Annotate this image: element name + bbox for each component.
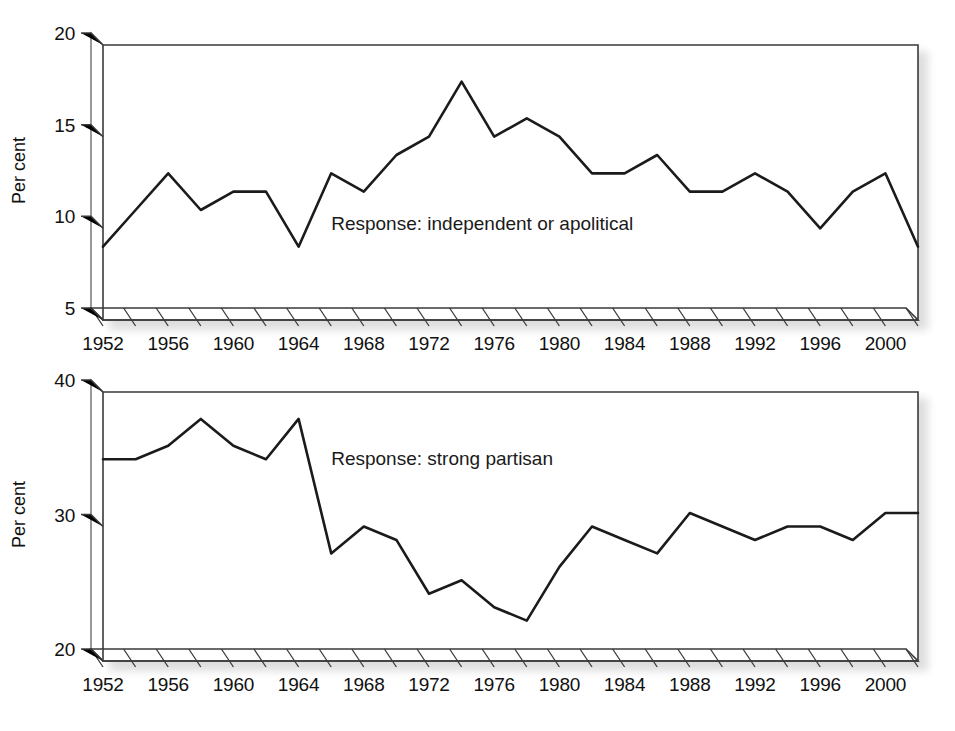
- line-chart-independent: 1952195619601964196819721976198019841988…: [0, 0, 955, 368]
- y-tick-label: 20: [54, 639, 75, 660]
- y-tick-label: 40: [54, 370, 75, 391]
- x-tick-label: 2000: [865, 674, 906, 695]
- x-tick-label: 1952: [82, 674, 123, 695]
- chart-panel-strong-partisan: 1952195619601964196819721976198019841988…: [0, 365, 955, 710]
- x-tick-label: 1964: [278, 674, 320, 695]
- series-annotation-label: Response: strong partisan: [331, 448, 553, 469]
- y-axis-title: Per cent: [9, 137, 29, 204]
- x-tick-label: 1980: [539, 333, 580, 354]
- line-chart-strong-partisan: 1952195619601964196819721976198019841988…: [0, 365, 955, 710]
- series-annotation-label: Response: independent or apolitical: [331, 213, 633, 234]
- x-tick-label: 1968: [343, 674, 384, 695]
- x-tick-label: 1984: [604, 333, 646, 354]
- x-tick-label: 1972: [408, 674, 449, 695]
- y-tick-label: 10: [54, 206, 75, 227]
- x-tick-label: 1960: [213, 674, 254, 695]
- figure-root: 1952195619601964196819721976198019841988…: [0, 0, 955, 731]
- y-tick-label: 30: [54, 505, 75, 526]
- x-tick-label: 2000: [865, 333, 906, 354]
- x-tick-label: 1992: [734, 674, 775, 695]
- x-tick-label: 1976: [473, 333, 514, 354]
- x-tick-label: 1988: [669, 674, 710, 695]
- x-tick-label: 1964: [278, 333, 320, 354]
- x-tick-label: 1952: [82, 333, 123, 354]
- x-tick-label: 1996: [799, 333, 840, 354]
- x-tick-label: 1972: [408, 333, 449, 354]
- x-tick-label: 1956: [147, 333, 188, 354]
- y-tick-label: 5: [65, 298, 75, 319]
- y-axis-title: Per cent: [9, 481, 29, 548]
- x-tick-label: 1980: [539, 674, 580, 695]
- y-tick-label: 15: [54, 115, 75, 136]
- x-tick-label: 1996: [799, 674, 840, 695]
- x-tick-label: 1976: [473, 674, 514, 695]
- x-tick-label: 1984: [604, 674, 646, 695]
- x-tick-label: 1992: [734, 333, 775, 354]
- x-tick-label: 1956: [147, 674, 188, 695]
- chart-panel-independent: 1952195619601964196819721976198019841988…: [0, 0, 955, 368]
- x-tick-label: 1960: [213, 333, 254, 354]
- x-tick-label: 1968: [343, 333, 384, 354]
- figure-caption-cutoff: [0, 714, 955, 731]
- y-tick-label: 20: [54, 23, 75, 44]
- x-tick-label: 1988: [669, 333, 710, 354]
